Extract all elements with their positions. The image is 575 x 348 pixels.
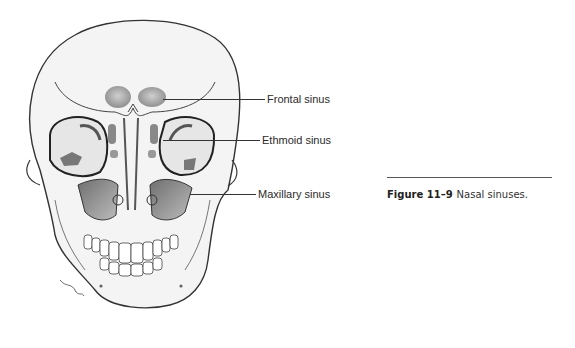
- figure-caption: Figure 11–9Nasal sinuses.: [387, 189, 528, 200]
- skull-illustration: [0, 0, 300, 348]
- frontal-sinus-left: [105, 86, 131, 108]
- artist-signature: [60, 280, 84, 296]
- label-ethmoid-sinus: Ethmoid sinus: [262, 134, 331, 146]
- caption-rule: [387, 177, 552, 178]
- figure-number: Figure 11–9: [387, 189, 453, 200]
- figure-nasal-sinuses: Frontal sinus Ethmoid sinus Maxillary si…: [0, 0, 575, 348]
- label-frontal-sinus: Frontal sinus: [267, 93, 330, 105]
- frontal-sinus-right: [138, 87, 166, 107]
- label-maxillary-sinus: Maxillary sinus: [258, 188, 330, 200]
- orbit-left: [50, 117, 107, 176]
- caption-text: Nasal sinuses.: [457, 189, 528, 200]
- ethmoid-leader-line: [163, 140, 260, 141]
- frontal-leader-line: [163, 99, 265, 100]
- maxillary-leader-line: [190, 194, 256, 195]
